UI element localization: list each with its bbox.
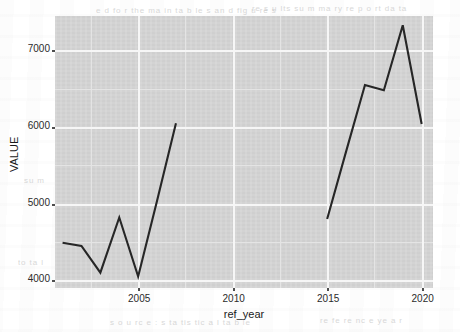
x-axis-tick-label: 2015 [302, 293, 354, 304]
x-axis-tick-label: 2020 [397, 293, 449, 304]
x-axis-tick-label: 2010 [208, 293, 260, 304]
x-axis-tick-mark [327, 288, 329, 291]
plot-panel [55, 16, 433, 288]
ghost-text-line: su m [24, 176, 45, 185]
x-axis-tick-label: 2005 [113, 293, 165, 304]
ghost-text-line: re s u lts su m ma ry re p o rt da ta [252, 4, 407, 13]
ghost-text-line: to ta l [18, 258, 44, 267]
x-axis-tick-mark [233, 288, 235, 291]
y-axis-tick-label: 5000 [10, 197, 50, 208]
y-axis-tick-label: 6000 [10, 120, 50, 131]
data-series-layer [55, 16, 433, 288]
ghost-text-line: e d fo r the ma in ta b le s an d fig u … [96, 6, 277, 15]
series-line-segment-1 [63, 123, 176, 276]
y-axis-tick-label: 4000 [10, 273, 50, 284]
x-axis-tick-mark [422, 288, 424, 291]
y-axis-tick-mark [52, 204, 55, 206]
x-axis-title: ref_year [30, 308, 458, 320]
y-axis-title: VALUE [8, 137, 20, 172]
x-axis-tick-mark [138, 288, 140, 291]
series-line-segment-2 [327, 25, 422, 219]
y-axis-tick-mark [52, 50, 55, 52]
y-axis-tick-label: 7000 [10, 43, 50, 54]
y-axis-tick-mark [52, 280, 55, 282]
y-axis-tick-mark [52, 127, 55, 129]
chart-canvas: e d fo r the ma in ta b le s an d fig u … [0, 0, 460, 332]
